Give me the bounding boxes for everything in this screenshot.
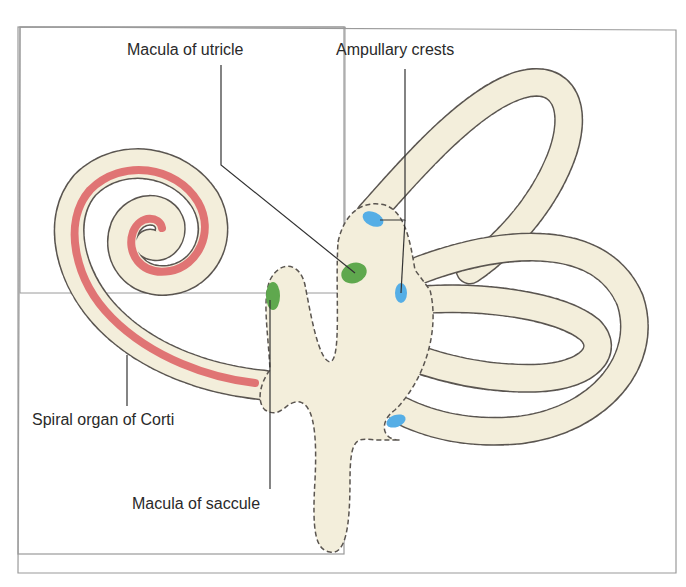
label-macula-of-utricle: Macula of utricle [127, 41, 244, 59]
label-macula-of-saccule: Macula of saccule [132, 495, 260, 513]
label-spiral-organ-of-corti: Spiral organ of Corti [32, 411, 174, 429]
label-ampullary-crests: Ampullary crests [336, 41, 454, 59]
macula-of-saccule [266, 282, 280, 310]
leader-line-macula-utricle [221, 65, 355, 273]
cochlear-duct [69, 164, 263, 385]
inner-ear-diagram [0, 0, 686, 587]
vestibule [260, 204, 433, 552]
